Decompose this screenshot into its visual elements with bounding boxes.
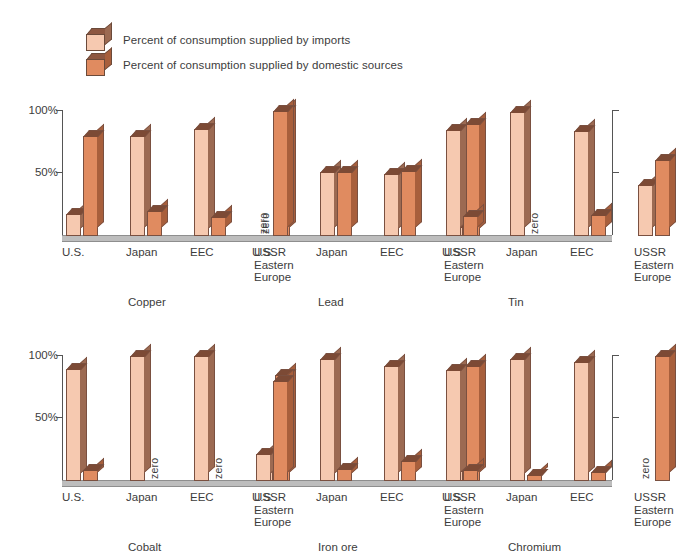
bar-domestic	[83, 136, 98, 236]
category-label: U.S.	[442, 246, 464, 259]
y-axis-labels-bottom: 100% 50%	[14, 345, 58, 480]
category-label: Japan	[506, 246, 537, 259]
bar-side-face	[80, 356, 87, 473]
bar-side-face	[334, 346, 341, 473]
bar-imports	[446, 370, 461, 481]
bar-domestic	[211, 217, 226, 236]
bar-side-face	[669, 344, 676, 473]
zero-label: zero	[257, 213, 269, 234]
bar-pair	[66, 100, 104, 236]
bar-imports	[256, 454, 271, 482]
commodity-label: Tin	[508, 296, 524, 308]
bar-pair	[194, 100, 232, 236]
y-axis-tick-right-100-bottom	[612, 355, 619, 356]
bar-domestic	[83, 470, 98, 481]
chart-panel-bottom: 100% 50% zerozerozero U.S.JapanEECUSSR E…	[0, 345, 655, 557]
bar-domestic	[147, 211, 162, 236]
legend-label-domestic: Percent of consumption supplied by domes…	[123, 59, 403, 71]
category-label: Japan	[316, 246, 347, 259]
bar-domestic	[655, 160, 670, 236]
y-tick-label-100-bottom: 100%	[29, 350, 58, 362]
bar-imports	[510, 359, 525, 482]
category-labels-top: U.S.JapanEECUSSR Eastern EuropeU.S.Japan…	[62, 246, 612, 294]
bar-domestic	[401, 461, 416, 481]
category-label: U.S.	[62, 246, 84, 259]
bar-pair	[320, 100, 358, 236]
bar-imports	[66, 214, 81, 237]
category-label: Japan	[506, 491, 537, 504]
baseline-ground-bottom	[62, 480, 612, 487]
bar-domestic	[273, 381, 288, 481]
category-label: EEC	[380, 246, 404, 259]
y-tick-label-50-bottom: 50%	[35, 412, 58, 424]
bar-side-face	[287, 369, 294, 473]
bar-side-face	[398, 354, 405, 473]
legend-item-imports: Percent of consumption supplied by impor…	[86, 27, 403, 52]
bar-top-face	[527, 469, 548, 476]
bar-pair	[130, 100, 168, 236]
bar-domestic	[655, 356, 670, 481]
bar-domestic	[463, 216, 478, 236]
bar-side-face	[144, 344, 151, 473]
bar-pair	[446, 345, 484, 481]
commodity-label: Chromium	[508, 541, 561, 553]
bar-imports	[574, 131, 589, 236]
bar-side-face	[161, 199, 168, 228]
bar-domestic	[591, 215, 606, 236]
bar-side-face	[208, 344, 215, 473]
bar-pair	[574, 345, 612, 481]
y-axis-tick-right-50-bottom	[612, 417, 619, 418]
y-axis-labels-top: 100% 50%	[14, 100, 58, 235]
bar-top-face	[591, 466, 612, 473]
bar-imports	[320, 359, 335, 482]
zero-label: zero	[148, 458, 160, 479]
bar-pair	[574, 100, 612, 236]
y-axis-tick-right-50-top	[612, 172, 619, 173]
chart-panel-top: 100% 50% zerozerozero U.S.JapanEECUSSR E…	[0, 100, 655, 320]
commodity-label: Lead	[318, 296, 344, 308]
bar-side-face	[588, 350, 595, 473]
zero-label: zero	[639, 458, 651, 479]
category-labels-bottom: U.S.JapanEECUSSR Eastern EuropeU.S.Japan…	[62, 491, 612, 539]
bar-pair: zero	[510, 100, 548, 236]
bar-imports	[446, 130, 461, 236]
bar-pair	[256, 345, 294, 481]
zero-label: zero	[212, 458, 224, 479]
category-label: EEC	[380, 491, 404, 504]
bar-domestic	[337, 172, 352, 236]
bar-imports	[130, 136, 145, 236]
bar-domestic	[337, 469, 352, 482]
bar-imports	[194, 129, 209, 237]
bar-imports	[66, 369, 81, 482]
bar-domestic	[273, 111, 288, 236]
bar-imports	[638, 185, 653, 236]
legend-item-domestic: Percent of consumption supplied by domes…	[86, 52, 403, 77]
category-label: U.S.	[252, 246, 274, 259]
bar-pair: zero	[256, 100, 294, 236]
bar-imports	[574, 362, 589, 481]
bar-pair	[320, 345, 358, 481]
bar-imports	[384, 174, 399, 237]
category-label: U.S.	[442, 491, 464, 504]
zero-label: zero	[528, 213, 540, 234]
bar-domestic	[463, 470, 478, 481]
commodity-label: Iron ore	[318, 541, 358, 553]
bar-imports	[384, 366, 399, 481]
bar-pair: zero	[130, 345, 168, 481]
category-label: EEC	[190, 246, 214, 259]
bar-pair	[384, 345, 422, 481]
category-label: Japan	[316, 491, 347, 504]
bar-pair: zero	[638, 345, 676, 481]
bar-pair	[446, 100, 484, 236]
bar-side-face	[460, 357, 467, 473]
category-label: EEC	[570, 491, 594, 504]
category-label: U.S.	[252, 491, 274, 504]
bar-imports	[510, 112, 525, 236]
bar-imports	[320, 172, 335, 236]
category-label: USSR Eastern Europe	[634, 491, 674, 529]
category-label: USSR Eastern Europe	[634, 246, 674, 284]
category-label: EEC	[190, 491, 214, 504]
bar-side-face	[287, 99, 294, 228]
legend: Percent of consumption supplied by impor…	[86, 27, 403, 77]
category-label: U.S.	[62, 491, 84, 504]
